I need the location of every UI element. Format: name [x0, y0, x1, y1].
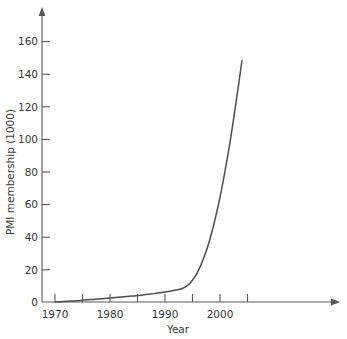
pmi-membership-line-chart: 160 140 120 100 80 60 40 20 0 1970 1980 … [0, 0, 347, 339]
y-tick-label-80: 80 [25, 166, 38, 178]
x-tick-label-2000: 2000 [207, 308, 234, 320]
y-axis-arrow-icon [39, 7, 46, 16]
x-tick-label-1980: 1980 [97, 308, 124, 320]
y-tick-label-100: 100 [18, 133, 38, 145]
x-tick-label-1970: 1970 [42, 308, 69, 320]
y-tick-label-0: 0 [31, 296, 38, 308]
y-axis-ticks [42, 42, 50, 270]
y-tick-label-120: 120 [18, 101, 38, 113]
y-axis-tick-labels: 160 140 120 100 80 60 40 20 0 [18, 35, 38, 308]
y-tick-label-140: 140 [18, 68, 38, 80]
y-tick-label-160: 160 [18, 35, 38, 47]
x-tick-label-1990: 1990 [152, 308, 179, 320]
x-axis-arrow-icon [331, 299, 340, 306]
y-tick-label-60: 60 [25, 198, 38, 210]
y-tick-label-40: 40 [25, 231, 38, 243]
membership-growth-curve [55, 61, 242, 303]
x-axis-tick-labels: 1970 1980 1990 2000 [42, 308, 234, 320]
y-tick-label-20: 20 [25, 264, 38, 276]
x-axis-title: Year [166, 323, 190, 335]
chart-container: 160 140 120 100 80 60 40 20 0 1970 1980 … [0, 0, 347, 339]
y-axis-title: PMI membership (1000) [4, 109, 16, 235]
